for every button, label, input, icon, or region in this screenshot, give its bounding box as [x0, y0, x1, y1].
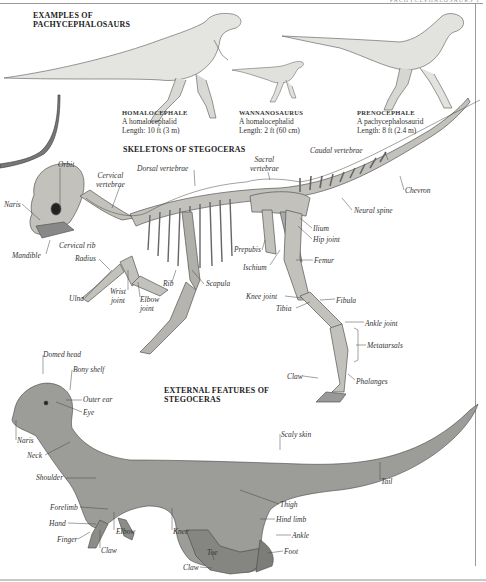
label-ulna: Ulna	[69, 294, 84, 303]
encyclopedia-page: PACHYCEPHALOSAURS 1	[0, 0, 486, 582]
label-forelimb: Forelimb	[50, 503, 78, 512]
label-claw-skeleton: Claw	[287, 372, 303, 381]
tail-fragment	[0, 95, 60, 168]
species-caption-homalocephale: HOMALOCEPHALE A homalocephalid Length: 1…	[122, 108, 188, 135]
label-claw-foot: Claw	[183, 563, 199, 572]
wannanosaurus-illustration	[232, 61, 303, 102]
label-femur: Femur	[314, 256, 334, 265]
label-tail: Tail	[381, 477, 392, 486]
label-domed-head: Domed head	[43, 350, 81, 359]
label-dorsal-vertebrae: Dorsal vertebrae	[137, 164, 188, 173]
label-neural-spine: Neural spine	[354, 206, 393, 215]
label-shoulder: Shoulder	[36, 473, 63, 482]
species-caption-wannanosaurus: WANNANOSAURUS A homalocephalid Length: 2…	[239, 108, 303, 135]
label-tibia: Tibia	[276, 304, 291, 313]
label-hip-joint: Hip joint	[313, 235, 340, 244]
label-cervical-rib: Cervical rib	[59, 241, 95, 250]
label-orbit: Orbit	[58, 160, 74, 169]
label-bony-shelf: Bony shelf	[73, 365, 104, 374]
label-foot: Foot	[284, 547, 298, 556]
label-chevron: Chevron	[405, 186, 431, 195]
stegoceras-external	[12, 383, 478, 574]
prenocephale-illustration	[282, 14, 464, 111]
label-elbow-joint: Elbow joint	[140, 295, 159, 313]
label-naris-external: Naris	[17, 436, 34, 445]
label-prepubis: Prepubis	[234, 245, 261, 254]
label-ilium: Ilium	[313, 224, 329, 233]
label-knee: Knee	[173, 527, 188, 536]
examples-heading: EXAMPLES OF PACHYCEPHALOSAURS	[33, 11, 130, 29]
label-knee-joint: Knee joint	[246, 292, 277, 301]
label-claw-hand: Claw	[101, 546, 117, 555]
label-eye: Eye	[83, 408, 94, 417]
label-phalanges: Phalanges	[356, 377, 388, 386]
label-wrist-joint: Wrist joint	[110, 287, 126, 305]
label-naris-skeleton: Naris	[4, 200, 21, 209]
label-rib: Rib	[163, 279, 173, 288]
label-metatarsals: Metatarsals	[367, 341, 403, 350]
label-ankle-joint: Ankle joint	[365, 319, 398, 328]
label-ischium: Ischium	[243, 263, 267, 272]
label-cervical-vertebrae: Cervical vertebrae	[96, 171, 125, 189]
label-outer-ear: Outer ear	[83, 395, 112, 404]
skeleton-heading: SKELETONS OF STEGOCERAS	[123, 145, 245, 154]
label-hand: Hand	[49, 519, 66, 528]
label-mandible: Mandible	[12, 251, 41, 260]
external-heading: EXTERNAL FEATURES OF STEGOCERAS	[164, 386, 269, 404]
label-caudal-vertebrae: Caudal vertebrae	[310, 146, 363, 155]
label-scaly-skin: Scaly skin	[281, 430, 311, 439]
label-sacral-vertebrae: Sacral vertebrae	[250, 155, 279, 173]
label-toe: Toe	[207, 548, 218, 557]
label-thigh: Thigh	[280, 500, 298, 509]
species-caption-prenocephale: PRENOCEPHALE A pachycephalosaurid Length…	[357, 108, 423, 135]
label-neck: Neck	[27, 451, 42, 460]
label-elbow: Elbow	[116, 527, 135, 536]
label-ankle: Ankle	[292, 531, 309, 540]
illustrations	[0, 0, 486, 582]
label-fibula: Fibula	[336, 296, 356, 305]
label-radius: Radius	[75, 254, 96, 263]
label-hind-limb: Hind limb	[276, 515, 306, 524]
label-finger: Finger	[57, 535, 77, 544]
homalocephale-illustration	[4, 13, 241, 122]
label-scapula: Scapula	[206, 279, 230, 288]
